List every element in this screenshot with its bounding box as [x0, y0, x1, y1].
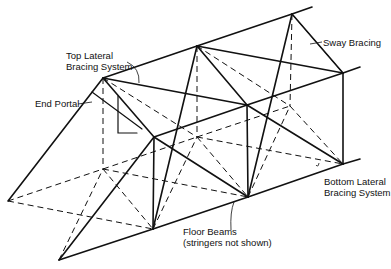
label-line: Bracing System — [324, 187, 391, 198]
label-line: Top Lateral — [66, 50, 133, 61]
floor-beams-label: Floor Beams (stringers not shown) — [183, 226, 272, 248]
bottom-lateral-bracing-label: Bottom Lateral Bracing System — [324, 176, 391, 198]
label-line: (stringers not shown) — [183, 237, 272, 248]
top-lateral-bracing-label: Top Lateral Bracing System — [66, 50, 133, 72]
label-line: Floor Beams — [183, 226, 272, 237]
label-line: Bottom Lateral — [324, 176, 391, 187]
end-portal-label: End Portal — [35, 98, 79, 109]
sway-bracing-label: Sway Bracing — [323, 37, 381, 48]
label-line: Bracing System — [66, 61, 133, 72]
